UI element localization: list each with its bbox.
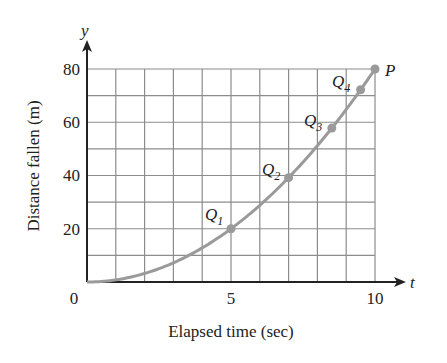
x-tick-5: 5 <box>227 289 236 308</box>
x-axis-title: Elapsed time (sec) <box>168 322 294 341</box>
y-tick-80: 80 <box>63 60 80 79</box>
point-label-q2: Q2 <box>262 160 280 183</box>
x-axis-symbol: t <box>410 273 416 292</box>
y-axis-title: Distance fallen (m) <box>24 100 43 231</box>
data-point-q3 <box>327 124 336 133</box>
chart: y t 80 60 40 20 0 5 10 Elapsed time (sec… <box>0 0 447 363</box>
x-tick-10: 10 <box>367 289 384 308</box>
y-axis-symbol: y <box>79 21 89 40</box>
data-point-q2 <box>284 173 293 182</box>
y-tick-20: 20 <box>63 220 80 239</box>
point-label-p: P <box>384 61 395 80</box>
grid <box>87 69 375 282</box>
origin-label: 0 <box>70 289 79 308</box>
y-tick-60: 60 <box>63 113 80 132</box>
y-tick-40: 40 <box>63 166 80 185</box>
point-label-q3: Q3 <box>304 111 322 134</box>
point-label-q1: Q1 <box>205 205 223 228</box>
data-point-q1 <box>227 224 236 233</box>
data-point-p <box>371 65 380 74</box>
data-point-q4 <box>356 85 365 94</box>
point-label-q4: Q4 <box>332 72 350 95</box>
